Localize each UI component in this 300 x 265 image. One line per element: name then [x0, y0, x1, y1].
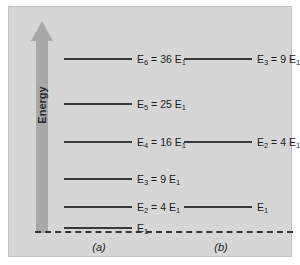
arrow-up-icon [31, 21, 53, 41]
level-relation: = 9 E [148, 173, 176, 185]
energy-axis-arrow: Energy [31, 21, 53, 233]
level-subscript: 6 [144, 58, 148, 67]
energy-level-line [184, 58, 252, 60]
level-relation-subscript: 1 [182, 103, 186, 112]
energy-level-line [184, 206, 252, 208]
level-relation: = 4 E [148, 201, 176, 213]
level-symbol: E [137, 136, 144, 148]
energy-level-line [64, 103, 132, 105]
energy-level-label: E2 = 4 E1 [137, 200, 180, 216]
level-subscript: 5 [144, 103, 148, 112]
level-subscript: 3 [144, 178, 148, 187]
caption-panel-b: (b) [201, 241, 241, 253]
energy-level-line [64, 178, 132, 180]
energy-level-line [64, 141, 132, 143]
level-relation: = 4 E [268, 136, 296, 148]
level-subscript: 2 [144, 206, 148, 215]
energy-level-line [64, 58, 132, 60]
level-relation-subscript: 1 [176, 178, 180, 187]
level-relation-subscript: 1 [176, 206, 180, 215]
level-symbol: E [257, 136, 264, 148]
level-subscript: 3 [264, 58, 268, 67]
energy-level-label: E2 = 4 E1 [257, 135, 300, 151]
level-symbol: E [257, 53, 264, 65]
level-subscript: 4 [144, 141, 148, 150]
level-symbol: E [257, 201, 264, 213]
level-symbol: E [137, 53, 144, 65]
energy-level-label: E1 [257, 200, 268, 216]
energy-level-label: E5 = 25 E1 [137, 97, 186, 113]
level-relation-subscript: 1 [296, 141, 300, 150]
energy-level-figure: Energy E6 = 36 E1E5 = 25 E1E4 = 16 E1E3 … [0, 0, 300, 265]
energy-level-line [184, 141, 252, 143]
caption-panel-a: (a) [79, 241, 119, 253]
level-relation: = 16 E [148, 136, 182, 148]
energy-level-label: E6 = 36 E1 [137, 52, 186, 68]
level-relation: = 36 E [148, 53, 182, 65]
figure-panel: Energy E6 = 36 E1E5 = 25 E1E4 = 16 E1E3 … [8, 6, 292, 257]
energy-level-label: E4 = 16 E1 [137, 135, 186, 151]
zero-energy-baseline [35, 231, 293, 233]
energy-level-label: E1 [137, 221, 148, 237]
level-relation: = 25 E [148, 98, 182, 110]
energy-level-label: E3 = 9 E1 [137, 172, 180, 188]
energy-level-line [64, 227, 132, 229]
level-relation-subscript: 1 [296, 58, 300, 67]
energy-axis-label: Energy [36, 70, 48, 140]
energy-level-line [64, 206, 132, 208]
level-symbol: E [137, 98, 144, 110]
level-relation: = 9 E [268, 53, 296, 65]
level-subscript: 1 [264, 206, 268, 215]
level-subscript: 2 [264, 141, 268, 150]
level-symbol: E [137, 201, 144, 213]
energy-level-label: E3 = 9 E1 [257, 52, 300, 68]
level-symbol: E [137, 173, 144, 185]
